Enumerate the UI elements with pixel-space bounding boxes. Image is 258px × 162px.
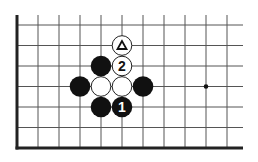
star-point-icon	[204, 84, 209, 89]
black-stone-icon	[91, 56, 112, 77]
black-stone	[133, 76, 154, 97]
black-stone	[91, 97, 112, 118]
white-stone	[91, 77, 111, 97]
black-stone: 1	[112, 97, 133, 118]
black-stone	[91, 56, 112, 77]
white-stone	[112, 77, 132, 97]
black-stone	[70, 76, 91, 97]
move-number-label: 1	[118, 99, 126, 115]
white-stone-icon	[112, 77, 132, 97]
black-stone-icon	[70, 76, 91, 97]
move-number-label: 2	[118, 58, 126, 74]
black-stone-icon	[91, 97, 112, 118]
go-board: 21	[0, 0, 258, 162]
stones: 21	[70, 36, 154, 118]
white-stone-icon	[112, 36, 132, 56]
white-stone	[112, 36, 132, 56]
white-stone-icon	[91, 77, 111, 97]
white-stone: 2	[112, 56, 132, 76]
black-stone-icon	[133, 76, 154, 97]
star-points	[204, 84, 209, 89]
